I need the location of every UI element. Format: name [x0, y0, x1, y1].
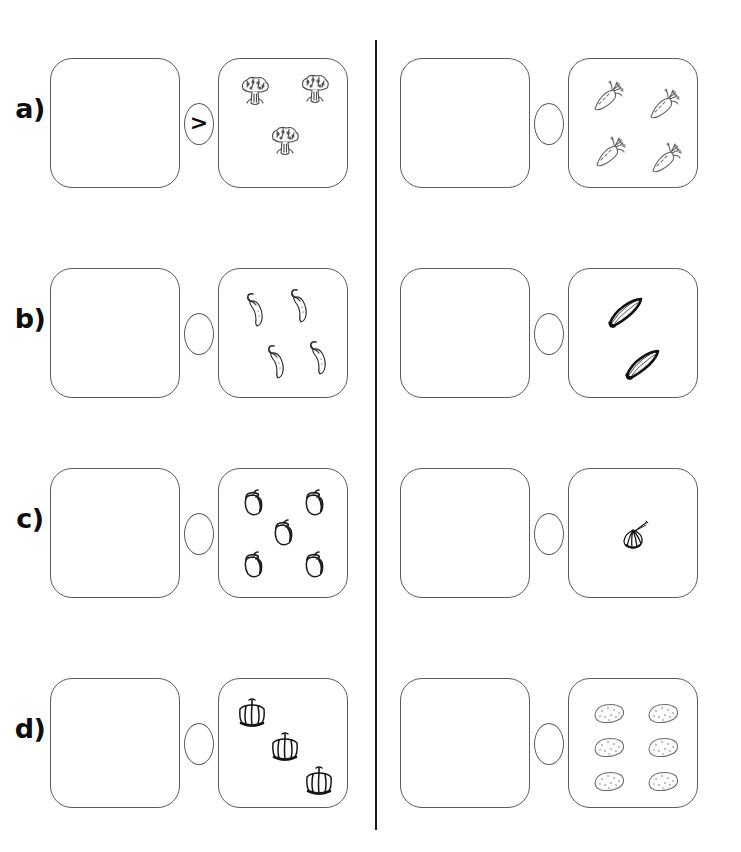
item-box — [568, 678, 698, 808]
exercise-pair — [400, 455, 700, 635]
item-box — [568, 58, 698, 188]
exercise-pair — [50, 455, 350, 635]
item-group-chili-pepper — [219, 269, 347, 397]
comparison-symbol-oval[interactable] — [184, 513, 214, 555]
chili-pepper-icon — [280, 287, 320, 327]
answer-box[interactable] — [50, 268, 180, 398]
worksheet-page: a)> — [0, 0, 741, 852]
answer-box[interactable] — [400, 468, 530, 598]
comparison-symbol-oval[interactable] — [534, 103, 564, 145]
potato-icon — [643, 761, 683, 801]
comparison-symbol-oval[interactable] — [534, 513, 564, 555]
exercise-pair — [400, 665, 700, 845]
row-label: d) — [12, 715, 48, 742]
eggplant-round-icon — [295, 546, 335, 586]
item-box — [568, 268, 698, 398]
exercise-row: b) — [0, 255, 741, 435]
bell-pepper-icon — [299, 761, 339, 801]
broccoli-icon — [235, 73, 275, 113]
item-box — [218, 268, 348, 398]
answer-box[interactable] — [400, 678, 530, 808]
item-box — [218, 58, 348, 188]
eggplant-long-icon — [623, 345, 663, 385]
comparison-symbol-oval[interactable] — [184, 313, 214, 355]
item-group-carrot — [569, 59, 697, 187]
potato-icon — [589, 761, 629, 801]
item-group-garlic — [569, 469, 697, 597]
exercise-pair — [400, 45, 700, 225]
garlic-icon — [615, 515, 655, 555]
item-group-potato — [569, 679, 697, 807]
row-label: b) — [12, 305, 48, 332]
exercise-pair — [50, 665, 350, 845]
carrot-icon — [643, 85, 683, 125]
eggplant-round-icon — [234, 546, 274, 586]
exercise-row: c) — [0, 455, 741, 635]
comparison-symbol-oval[interactable] — [534, 723, 564, 765]
exercise-pair: > — [50, 45, 350, 225]
exercise-row: d) — [0, 665, 741, 845]
exercise-pair — [50, 255, 350, 435]
item-group-eggplant-long — [569, 269, 697, 397]
answer-box[interactable] — [50, 468, 180, 598]
exercise-pair — [400, 255, 700, 435]
item-box — [218, 468, 348, 598]
comparison-symbol-oval[interactable] — [534, 313, 564, 355]
answer-box[interactable] — [400, 58, 530, 188]
carrot-icon — [645, 139, 685, 179]
carrot-icon — [587, 77, 627, 117]
chili-pepper-icon — [236, 291, 276, 331]
exercise-row: a)> — [0, 45, 741, 225]
chili-pepper-icon — [257, 343, 297, 383]
comparison-symbol-oval[interactable] — [184, 723, 214, 765]
carrot-icon — [589, 133, 629, 173]
answer-box[interactable] — [400, 268, 530, 398]
item-box — [568, 468, 698, 598]
answer-box[interactable] — [50, 58, 180, 188]
comparison-symbol-oval[interactable]: > — [184, 103, 214, 145]
chili-pepper-icon — [299, 339, 339, 379]
item-group-broccoli — [219, 59, 347, 187]
answer-box[interactable] — [50, 678, 180, 808]
item-group-bell-pepper — [219, 679, 347, 807]
item-group-eggplant-round — [219, 469, 347, 597]
broccoli-icon — [295, 71, 335, 111]
row-label: c) — [12, 505, 48, 532]
broccoli-icon — [265, 123, 305, 163]
item-box — [218, 678, 348, 808]
row-label: a) — [12, 95, 48, 122]
eggplant-long-icon — [606, 293, 646, 333]
comparison-symbol: > — [190, 112, 208, 134]
